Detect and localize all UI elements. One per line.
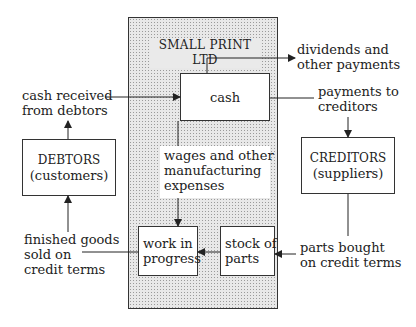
wages-line1: wages and other <box>164 148 270 163</box>
wages-line3: expenses <box>164 178 270 193</box>
dividends-line2: other payments <box>297 57 400 72</box>
wages-expenses-block: wages and other manufacturing expenses <box>160 146 270 198</box>
company-title: SMALL PRINT LTD <box>150 38 260 68</box>
parts-bought-line2: on credit terms <box>300 255 402 270</box>
payments-line2: creditors <box>318 99 399 114</box>
stock-of-parts-box: stock of parts <box>220 226 275 276</box>
work-in-progress-box: work in progress <box>138 226 198 276</box>
dividends-line1: dividends and <box>297 42 400 57</box>
finished-line3: credit terms <box>24 262 119 277</box>
cash-label: cash <box>210 90 240 105</box>
finished-goods-label: finished goods sold on credit terms <box>24 232 119 277</box>
cash-received-label: cash received from debtors <box>22 88 113 118</box>
payments-creditors-label: payments to creditors <box>318 84 399 114</box>
cash-received-line1: cash received <box>22 88 113 103</box>
finished-line2: sold on <box>24 247 119 262</box>
stock-line2: parts <box>225 251 259 266</box>
creditors-box: CREDITORS (suppliers) <box>301 137 395 194</box>
payments-line1: payments to <box>318 84 399 99</box>
debtors-box: DEBTORS (customers) <box>22 139 116 196</box>
debtors-title: DEBTORS <box>38 153 100 168</box>
creditors-title: CREDITORS <box>310 151 386 166</box>
creditors-subtitle: (suppliers) <box>313 166 384 181</box>
wip-line2: progress <box>143 251 201 266</box>
parts-bought-label: parts bought on credit terms <box>300 240 402 270</box>
wages-line2: manufacturing <box>164 163 270 178</box>
stock-line1: stock of <box>225 236 277 251</box>
cash-received-line2: from debtors <box>22 103 113 118</box>
wip-line1: work in <box>143 236 193 251</box>
parts-bought-line1: parts bought <box>300 240 402 255</box>
cash-box: cash <box>180 73 270 121</box>
dividends-label: dividends and other payments <box>297 42 400 72</box>
finished-line1: finished goods <box>24 232 119 247</box>
debtors-subtitle: (customers) <box>30 168 108 183</box>
